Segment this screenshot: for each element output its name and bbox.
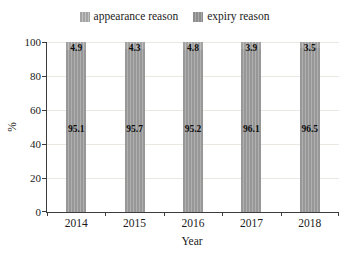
bar-2016: 4.895.2 <box>183 42 203 212</box>
x-tick-label-2017: 2017 <box>222 218 280 230</box>
plot-area: 0204060801004.995.120144.395.720154.895.… <box>46 42 339 213</box>
legend-item-appearance: appearance reason <box>80 11 179 23</box>
y-axis-tick <box>42 211 46 212</box>
stacked-bar-chart: appearance reasonexpiry reason 020406080… <box>0 0 349 263</box>
y-axis-tick <box>42 144 46 145</box>
value-label-expiry: 96.1 <box>235 126 267 136</box>
bar-2017: 3.996.1 <box>241 42 261 212</box>
legend-label: appearance reason <box>94 11 179 23</box>
value-label-appearance: 3.5 <box>294 44 326 54</box>
y-axis-tick <box>42 42 46 43</box>
legend-swatch-icon <box>193 12 203 22</box>
x-axis-tick <box>164 212 165 216</box>
y-tick-label: 80 <box>3 71 41 82</box>
x-axis-tick <box>222 212 223 216</box>
y-tick-label: 0 <box>3 207 41 218</box>
x-tick-label-2014: 2014 <box>47 218 105 230</box>
x-axis-title: Year <box>46 235 338 247</box>
y-axis-tick <box>42 110 46 111</box>
value-label-appearance: 4.8 <box>177 44 209 54</box>
y-axis-tick <box>42 76 46 77</box>
x-tick-label-2018: 2018 <box>281 218 339 230</box>
y-axis-title: % <box>6 116 18 138</box>
x-axis-tick <box>281 212 282 216</box>
x-axis-tick <box>105 212 106 216</box>
bar-2015: 4.395.7 <box>125 42 145 212</box>
value-label-appearance: 4.9 <box>60 44 92 54</box>
value-label-appearance: 4.3 <box>119 44 151 54</box>
y-tick-label: 60 <box>3 105 41 116</box>
x-tick-label-2016: 2016 <box>164 218 222 230</box>
legend-item-expiry: expiry reason <box>193 11 269 23</box>
legend-label: expiry reason <box>207 11 269 23</box>
value-label-expiry: 95.2 <box>177 126 209 136</box>
bar-2018: 3.596.5 <box>300 42 320 212</box>
bar-2014: 4.995.1 <box>66 42 86 212</box>
y-axis-tick <box>42 178 46 179</box>
value-label-appearance: 3.9 <box>235 44 267 54</box>
chart-legend: appearance reasonexpiry reason <box>0 11 349 23</box>
value-label-expiry: 96.5 <box>294 126 326 136</box>
value-label-expiry: 95.7 <box>119 126 151 136</box>
y-tick-label: 40 <box>3 139 41 150</box>
legend-swatch-icon <box>80 12 90 22</box>
x-tick-label-2015: 2015 <box>105 218 163 230</box>
x-axis-tick <box>338 212 339 216</box>
value-label-expiry: 95.1 <box>60 126 92 136</box>
y-tick-label: 100 <box>3 37 41 48</box>
x-axis-tick <box>47 212 48 216</box>
y-tick-label: 20 <box>3 173 41 184</box>
